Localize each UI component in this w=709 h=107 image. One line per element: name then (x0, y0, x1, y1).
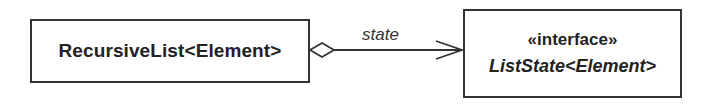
association-role-label: state (362, 25, 399, 45)
class-recursive-list: RecursiveList<Element> (30, 19, 310, 83)
interface-name: ListState<Element> (489, 56, 656, 77)
aggregation-diamond-icon (310, 43, 334, 57)
stereotype-label: «interface» (528, 30, 618, 50)
class-name: RecursiveList<Element> (59, 40, 282, 62)
interface-list-state: «interface» ListState<Element> (463, 9, 682, 98)
